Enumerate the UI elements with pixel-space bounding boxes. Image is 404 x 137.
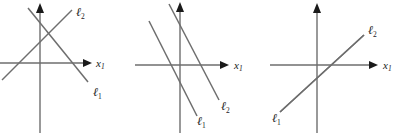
line-ell-2 <box>280 35 364 112</box>
x-axis-label: x1 <box>233 59 243 73</box>
linear-systems-figure: x1 ℓ1 ℓ2 x1 ℓ1 ℓ2 <box>0 0 404 137</box>
y-axis-arrow-icon <box>176 2 184 12</box>
x-axis-arrow-icon <box>220 61 229 69</box>
x-axis-arrow-icon <box>83 59 92 67</box>
panel-two-no-solution: x1 ℓ1 ℓ2 <box>135 0 270 137</box>
panel-three-plot: x1 ℓ1 ℓ2 <box>270 0 404 137</box>
line-ell-1-label: ℓ1 <box>272 111 281 127</box>
panel-one-plot: x1 ℓ1 ℓ2 <box>0 0 135 137</box>
x-axis-label: x1 <box>382 59 392 73</box>
y-axis-arrow-icon <box>313 3 321 13</box>
x-axis-label: x1 <box>95 57 105 71</box>
y-axis-arrow-icon <box>36 3 44 13</box>
line-ell-1-label: ℓ1 <box>93 85 102 101</box>
line-ell-2-label: ℓ2 <box>368 23 377 39</box>
panel-two-plot: x1 ℓ1 ℓ2 <box>135 0 270 137</box>
panel-three-infinitely-many-solutions: x1 ℓ1 ℓ2 <box>270 0 404 137</box>
line-ell-2-label: ℓ2 <box>76 5 85 21</box>
line-ell-1 <box>149 21 197 116</box>
x-axis-arrow-icon <box>369 61 378 69</box>
line-ell-2 <box>2 10 72 80</box>
line-ell-2-label: ℓ2 <box>221 99 230 115</box>
line-ell-2 <box>169 4 219 100</box>
panel-one-unique-solution: x1 ℓ1 ℓ2 <box>0 0 135 137</box>
line-ell-1-label: ℓ1 <box>197 114 206 130</box>
